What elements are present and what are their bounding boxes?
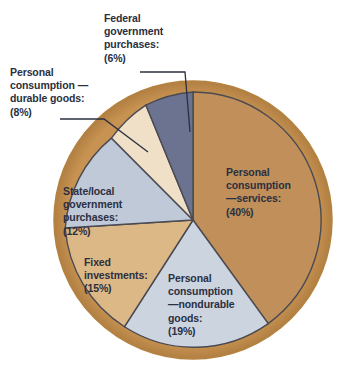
slice-label-fixed: Fixed investments: (15%) xyxy=(84,256,168,296)
slice-label-services: Personal consumption —services: (40%) xyxy=(226,166,314,219)
pie-chart-figure: Federal government purchases: (6%) Perso… xyxy=(0,0,354,377)
slice-label-nondurable: Personal consumption —nondurable goods: … xyxy=(168,272,260,338)
slice-label-statelocal: State/local government purchases: (12%) xyxy=(63,185,159,238)
slice-label-federal: Federal government purchases: (6%) xyxy=(104,12,200,65)
slice-label-durable: Personal consumption — durable goods: (8… xyxy=(10,66,114,119)
